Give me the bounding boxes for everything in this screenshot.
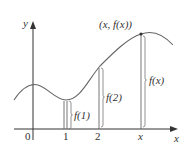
tick-label-1: 1 bbox=[63, 130, 69, 142]
f1-label: f(1) bbox=[74, 109, 90, 122]
bracket-f2 bbox=[101, 68, 105, 127]
tick-label-2: 2 bbox=[95, 130, 101, 142]
ordinate-1 bbox=[64, 101, 67, 129]
tick-label-x: x bbox=[137, 130, 143, 142]
origin-label: 0 bbox=[25, 130, 31, 142]
point-label: (x, f(x)) bbox=[99, 18, 132, 31]
graph-canvas: y x 0 1 2 x (x, f(x)) f(1) f(2) f(x) bbox=[0, 0, 194, 157]
function-curve bbox=[14, 32, 173, 100]
y-axis-label: y bbox=[22, 17, 28, 29]
x-axis-label: x bbox=[173, 132, 179, 144]
bracket-f1 bbox=[69, 101, 73, 129]
point-x-fx bbox=[139, 32, 142, 35]
f2-label: f(2) bbox=[106, 91, 122, 104]
fx-label: f(x) bbox=[149, 74, 165, 87]
bracket-fx bbox=[143, 36, 147, 127]
y-axis-arrow bbox=[30, 21, 36, 29]
